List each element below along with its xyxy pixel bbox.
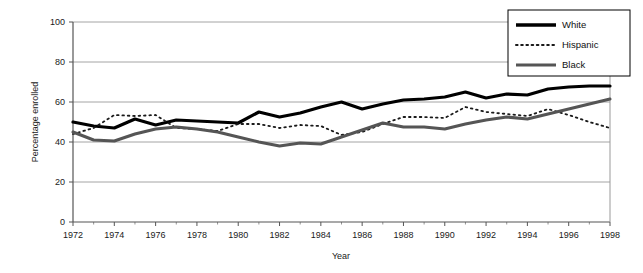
x-tick-label-1972: 1972: [63, 230, 83, 240]
y-tick-label-60: 60: [55, 97, 65, 107]
x-tick-label-1986: 1986: [352, 230, 372, 240]
line-chart-svg: 020406080100 197219741976197819801982198…: [0, 0, 643, 273]
y-tick-label-100: 100: [50, 17, 65, 27]
y-axis-title: Percentage enrolled: [30, 82, 40, 163]
x-tick-label-1990: 1990: [435, 230, 455, 240]
y-tick-label-20: 20: [55, 177, 65, 187]
x-tick-label-1978: 1978: [187, 230, 207, 240]
legend-label-white: White: [562, 19, 586, 30]
y-tick-label-80: 80: [55, 57, 65, 67]
chart-figure: 020406080100 197219741976197819801982198…: [0, 0, 643, 273]
x-tick-label-1976: 1976: [146, 230, 166, 240]
legend: White Hispanic Black: [508, 10, 630, 76]
x-tick-label-1982: 1982: [270, 230, 290, 240]
x-tick-label-1994: 1994: [517, 230, 537, 240]
x-tick-label-1980: 1980: [228, 230, 248, 240]
x-axis-title: Year: [332, 251, 350, 261]
x-tick-label-1974: 1974: [104, 230, 124, 240]
legend-label-black: Black: [562, 59, 585, 70]
x-tick-label-1996: 1996: [559, 230, 579, 240]
legend-label-hispanic: Hispanic: [562, 39, 599, 50]
y-tick-label-40: 40: [55, 137, 65, 147]
x-tick-label-1984: 1984: [311, 230, 331, 240]
y-tick-label-0: 0: [60, 217, 65, 227]
x-tick-label-1988: 1988: [393, 230, 413, 240]
x-tick-label-1998: 1998: [600, 230, 620, 240]
x-tick-label-1992: 1992: [476, 230, 496, 240]
